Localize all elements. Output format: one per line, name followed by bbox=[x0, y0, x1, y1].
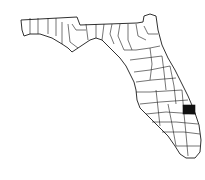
florida-county-map bbox=[0, 0, 205, 180]
highlighted-county-st-lucie bbox=[183, 105, 195, 114]
